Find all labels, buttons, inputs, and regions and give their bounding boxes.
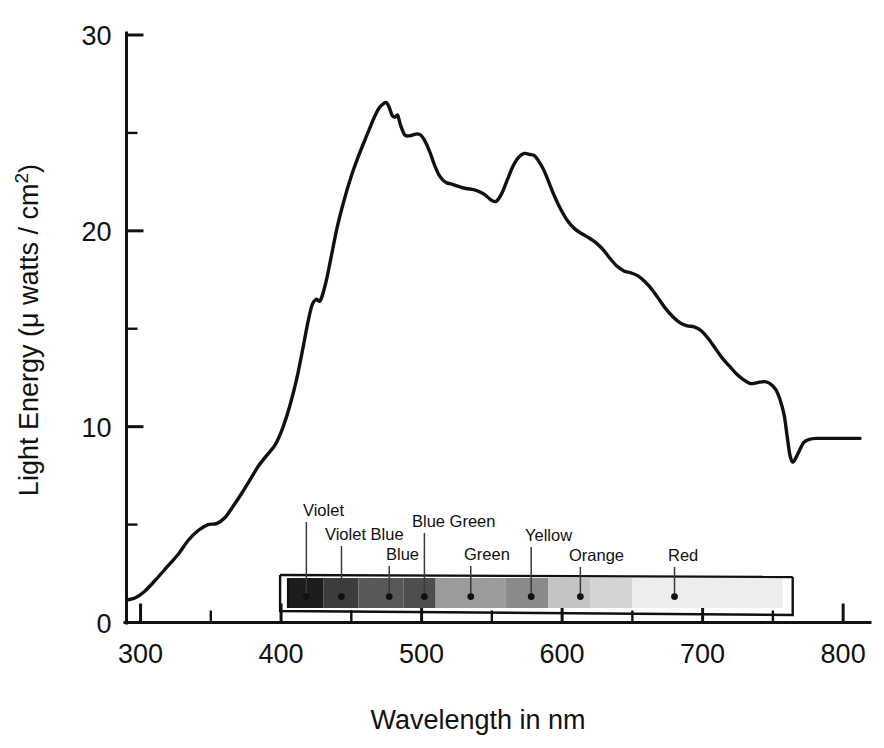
- y-axis-title-superscript: 2: [11, 173, 32, 184]
- x-tick-label: 400: [259, 639, 304, 669]
- spectrum-band-yellow: [548, 578, 590, 608]
- y-tick-label: 0: [96, 609, 111, 639]
- band-label-red: Red: [668, 546, 698, 564]
- x-axis-title: Wavelength in nm: [370, 705, 585, 735]
- y-axis-title-end: ): [14, 164, 44, 173]
- band-label-orange: Orange: [569, 546, 624, 564]
- y-tick-label: 10: [81, 413, 111, 443]
- y-axis-tick-labels: 0102030: [81, 21, 111, 639]
- spectrum-band-blue: [358, 578, 403, 608]
- anchor-dot-violet: [303, 593, 310, 600]
- band-label-violet: Violet: [303, 501, 344, 519]
- spectrum-band-labels: VioletViolet BlueBlueBlue GreenGreenYell…: [303, 501, 698, 564]
- svg-text:Light Energy (μ watts / cm2): Light Energy (μ watts / cm2): [11, 164, 44, 496]
- band-label-green: Green: [464, 545, 510, 563]
- spectral-irradiance-chart: 0102030 300400500600700800 VioletViolet …: [0, 0, 884, 748]
- anchor-dot-orange: [577, 593, 584, 600]
- spectrum-top-rule: [280, 575, 793, 577]
- anchor-dot-blue-green: [421, 593, 428, 600]
- band-label-violet-blue: Violet Blue: [325, 525, 404, 543]
- spectrum-band-red: [632, 578, 782, 608]
- y-tick-label: 20: [81, 217, 111, 247]
- y-axis-title-main: Light Energy (μ watts / cm: [14, 183, 44, 496]
- axes: [125, 33, 870, 623]
- x-tick-label: 600: [540, 639, 585, 669]
- band-label-blue: Blue: [386, 545, 419, 563]
- band-label-blue-green: Blue Green: [412, 512, 495, 530]
- x-axis-tick-labels: 300400500600700800: [118, 639, 866, 669]
- x-tick-label: 300: [118, 639, 163, 669]
- x-tick-label: 500: [399, 639, 444, 669]
- spectrum-band-green-2: [506, 578, 548, 608]
- band-label-yellow: Yellow: [525, 526, 572, 544]
- y-axis-title: Light Energy (μ watts / cm2): [11, 164, 44, 496]
- spectrum-color-bar: [288, 578, 783, 608]
- chart-figure: 0102030 300400500600700800 VioletViolet …: [0, 0, 884, 748]
- anchor-dot-blue: [386, 593, 393, 600]
- x-tick-label: 800: [821, 639, 866, 669]
- anchor-dot-violet-blue: [338, 593, 345, 600]
- y-tick-label: 30: [81, 21, 111, 51]
- anchor-dot-green: [467, 593, 474, 600]
- spectrum-band-orange: [590, 578, 632, 608]
- y-axis-ticks: [127, 35, 144, 623]
- x-tick-label: 700: [680, 639, 725, 669]
- anchor-dot-red: [671, 593, 678, 600]
- anchor-dot-yellow: [528, 593, 535, 600]
- spectrum-band-blue-green: [403, 578, 435, 608]
